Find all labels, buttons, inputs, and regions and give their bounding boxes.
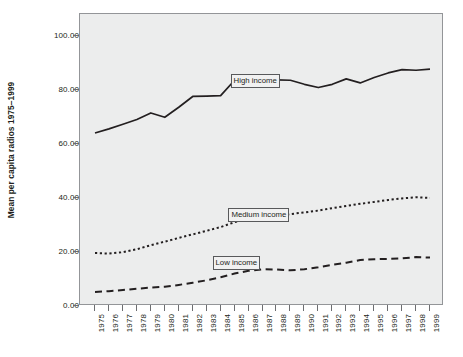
series-label-high-income: High income bbox=[231, 74, 280, 88]
x-tick-label: 1991 bbox=[321, 314, 330, 332]
plot-area: High income Medium income Low income bbox=[79, 13, 443, 305]
x-tick-label: 1975 bbox=[97, 314, 106, 332]
x-tick-mark bbox=[94, 305, 95, 311]
x-tick-mark bbox=[192, 305, 193, 311]
x-tick-label: 1983 bbox=[209, 314, 218, 332]
chart-figure: Mean per capita radios 1975–1999 0.0020.… bbox=[0, 0, 463, 357]
x-tick-label: 1994 bbox=[362, 314, 371, 332]
x-tick-label: 1987 bbox=[265, 314, 274, 332]
series-line-medium-income bbox=[95, 197, 430, 253]
x-tick-label: 1988 bbox=[279, 314, 288, 332]
x-tick-mark bbox=[359, 305, 360, 311]
x-tick-mark bbox=[289, 305, 290, 311]
x-tick-mark bbox=[220, 305, 221, 311]
x-tick-label: 1992 bbox=[334, 314, 343, 332]
x-tick-label: 1997 bbox=[404, 314, 413, 332]
x-tick-mark bbox=[108, 305, 109, 311]
x-tick-label: 1990 bbox=[307, 314, 316, 332]
x-tick-label: 1986 bbox=[251, 314, 260, 332]
x-tick-mark bbox=[387, 305, 388, 311]
x-tick-mark bbox=[178, 305, 179, 311]
x-tick-mark bbox=[164, 305, 165, 311]
x-tick-mark bbox=[415, 305, 416, 311]
x-tick-mark bbox=[275, 305, 276, 311]
x-tick-label: 1985 bbox=[237, 314, 246, 332]
x-tick-mark bbox=[136, 305, 137, 311]
x-tick-mark bbox=[317, 305, 318, 311]
y-axis-title-text: Mean per capita radios 1975–1999 bbox=[6, 82, 16, 219]
plot-lines bbox=[80, 14, 444, 306]
series-label-medium-income: Medium income bbox=[228, 208, 289, 222]
x-tick-mark bbox=[345, 305, 346, 311]
y-axis-title: Mean per capita radios 1975–1999 bbox=[0, 0, 22, 300]
x-tick-label: 1995 bbox=[376, 314, 385, 332]
x-tick-mark bbox=[303, 305, 304, 311]
x-tick-label: 1999 bbox=[432, 314, 441, 332]
x-tick-label: 1979 bbox=[153, 314, 162, 332]
x-tick-mark bbox=[150, 305, 151, 311]
x-axis: 1975197619771978197919801981198219831984… bbox=[79, 305, 443, 357]
x-tick-mark bbox=[262, 305, 263, 311]
x-tick-mark bbox=[122, 305, 123, 311]
series-label-low-income: Low income bbox=[213, 256, 261, 270]
x-tick-mark bbox=[331, 305, 332, 311]
x-tick-mark bbox=[429, 305, 430, 311]
series-line-low-income bbox=[95, 257, 430, 292]
x-tick-label: 1982 bbox=[195, 314, 204, 332]
x-tick-mark bbox=[401, 305, 402, 311]
x-tick-mark bbox=[248, 305, 249, 311]
x-tick-label: 1996 bbox=[390, 314, 399, 332]
x-tick-label: 1993 bbox=[348, 314, 357, 332]
x-tick-label: 1989 bbox=[293, 314, 302, 332]
x-tick-label: 1978 bbox=[139, 314, 148, 332]
x-tick-label: 1998 bbox=[418, 314, 427, 332]
x-tick-mark bbox=[206, 305, 207, 311]
x-tick-mark bbox=[373, 305, 374, 311]
x-tick-label: 1980 bbox=[167, 314, 176, 332]
x-tick-label: 1977 bbox=[125, 314, 134, 332]
x-tick-label: 1984 bbox=[223, 314, 232, 332]
y-axis: 0.0020.0040.0060.0080.00100.00 bbox=[25, 0, 79, 357]
x-tick-mark bbox=[234, 305, 235, 311]
x-tick-label: 1976 bbox=[111, 314, 120, 332]
x-tick-label: 1981 bbox=[181, 314, 190, 332]
